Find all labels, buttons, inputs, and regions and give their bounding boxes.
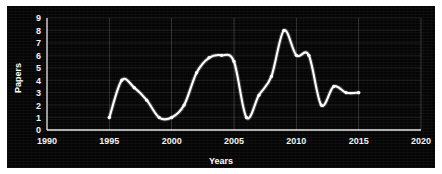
line-chart: 0123456789 1990199520002005201020152020 … bbox=[7, 6, 435, 168]
svg-text:1990: 1990 bbox=[37, 136, 57, 146]
svg-text:2005: 2005 bbox=[224, 136, 244, 146]
svg-text:1995: 1995 bbox=[99, 136, 119, 146]
svg-text:5: 5 bbox=[36, 63, 41, 73]
x-tick-labels: 1990199520002005201020152020 bbox=[37, 136, 431, 146]
svg-text:2015: 2015 bbox=[349, 136, 369, 146]
svg-text:2: 2 bbox=[36, 101, 41, 111]
svg-text:1: 1 bbox=[36, 113, 41, 123]
svg-text:3: 3 bbox=[36, 88, 41, 98]
svg-text:7: 7 bbox=[36, 38, 41, 48]
chart-plot-plate: 0123456789 1990199520002005201020152020 … bbox=[7, 6, 435, 168]
y-tick-labels: 0123456789 bbox=[36, 13, 41, 135]
svg-text:6: 6 bbox=[36, 51, 41, 61]
svg-text:0: 0 bbox=[36, 125, 41, 135]
svg-text:2010: 2010 bbox=[286, 136, 306, 146]
x-axis-title: Years bbox=[209, 156, 233, 166]
svg-text:2000: 2000 bbox=[162, 136, 182, 146]
svg-text:4: 4 bbox=[36, 76, 41, 86]
svg-text:2020: 2020 bbox=[411, 136, 431, 146]
svg-text:9: 9 bbox=[36, 13, 41, 23]
y-axis-title: Papers bbox=[13, 63, 23, 93]
svg-text:8: 8 bbox=[36, 26, 41, 36]
chart-figure: 0123456789 1990199520002005201020152020 … bbox=[0, 0, 442, 174]
